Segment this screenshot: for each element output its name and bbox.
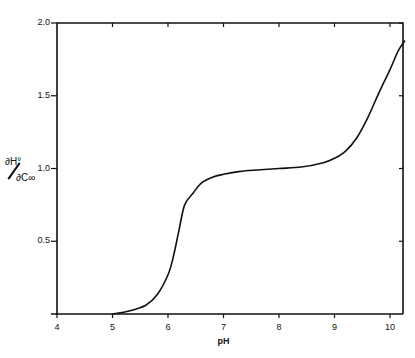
y-tick-label: 0.5 bbox=[37, 235, 50, 245]
x-tick-label: 7 bbox=[221, 322, 226, 332]
y-axis-label-denominator: ∂C∞ bbox=[16, 172, 35, 183]
y-tick-label: 2.0 bbox=[37, 17, 50, 27]
x-tick-label: 5 bbox=[110, 322, 115, 332]
data-curve bbox=[113, 40, 405, 314]
x-tick-label: 10 bbox=[385, 322, 395, 332]
x-tick-label: 8 bbox=[276, 322, 281, 332]
x-tick-label: 6 bbox=[165, 322, 170, 332]
x-tick-label: 4 bbox=[54, 322, 59, 332]
plot-frame bbox=[57, 23, 403, 314]
line-chart: 456789100.51.01.52.0pH bbox=[0, 0, 415, 358]
y-axis-label: ∂H° ∂C∞ bbox=[2, 156, 36, 196]
y-tick-label: 1.0 bbox=[37, 163, 50, 173]
x-axis-label: pH bbox=[218, 336, 230, 346]
x-tick-label: 9 bbox=[332, 322, 337, 332]
y-tick-label: 1.5 bbox=[37, 90, 50, 100]
